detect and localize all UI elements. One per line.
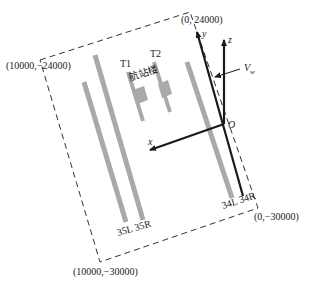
z-axis-label: z bbox=[227, 34, 232, 45]
terminal-t1-label: T1 bbox=[120, 58, 131, 69]
terminal-t2-label: T2 bbox=[150, 48, 161, 59]
runway-35l bbox=[84, 82, 126, 222]
x-axis-label: x bbox=[147, 136, 153, 147]
terminal-building-label: 航站楼 bbox=[127, 62, 159, 83]
corner-label-bottom-right: (0,−30000) bbox=[254, 211, 299, 223]
y-axis-label: y bbox=[201, 28, 207, 39]
corner-label-bottom-left: (10000,−30000) bbox=[73, 266, 138, 278]
origin-label: O bbox=[228, 119, 235, 130]
runway-label-34: 34L 34R bbox=[220, 190, 257, 211]
corner-label-top-left: (10000,−24000) bbox=[6, 60, 71, 72]
airport-coordinate-diagram: (10000,−24000) (0, 24000) (0,−30000) (10… bbox=[0, 0, 309, 288]
runway-label-35: 35L 35R bbox=[116, 218, 153, 238]
wind-vector-label: Vw bbox=[244, 62, 255, 76]
wind-vector-arrow bbox=[215, 69, 240, 77]
corner-label-top-right: (0, 24000) bbox=[181, 14, 223, 26]
